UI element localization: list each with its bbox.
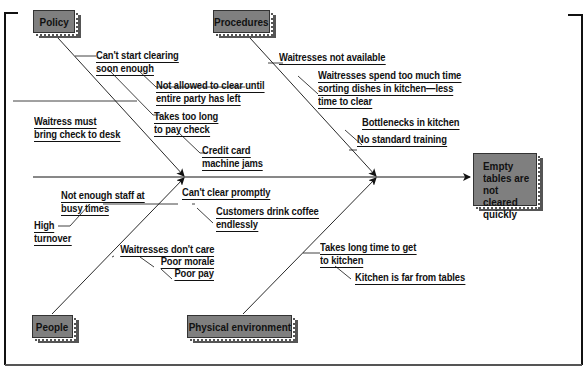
cause-cant-clear-promptly: Can't clear promptly <box>182 187 270 200</box>
cause-customers-drink-coffee: Customers drink coffee endlessly <box>216 206 319 232</box>
cause-not-enough-staff: Not enough staff at busy times <box>61 190 145 216</box>
effect-label: Empty tables are not cleared quickly <box>483 160 531 220</box>
cause-high-turnover: High turnover <box>34 220 71 246</box>
cause-waitress-must-bring-check: Waitress must bring check to desk <box>34 116 120 142</box>
category-label: People <box>36 321 68 333</box>
cause-bottlenecks-in-kitchen: Bottlenecks in kitchen <box>362 117 459 130</box>
category-box-policy: Policy <box>33 10 75 33</box>
cause-takes-too-long-to-pay: Takes too long to pay check <box>154 111 218 137</box>
category-label: Policy <box>39 16 68 28</box>
category-box-people: People <box>32 315 73 338</box>
category-box-physical-environment: Physical environment <box>187 315 292 338</box>
cause-takes-long-time-to-kitchen: Takes long time to get to kitchen <box>320 242 416 268</box>
cause-not-allowed-to-clear: Not allowed to clear until entire party … <box>156 80 265 106</box>
cause-credit-card-machine-jams: Credit card machine jams <box>202 145 263 171</box>
category-label: Procedures <box>214 16 268 28</box>
cause-waitresses-not-available: Waitresses not available <box>279 52 385 65</box>
fishbone-diagram: Policy Procedures People Physical enviro… <box>0 0 586 368</box>
category-label: Physical environment <box>188 321 290 333</box>
category-box-procedures: Procedures <box>213 10 270 33</box>
cause-waitresses-sorting-dishes: Waitresses spend too much time sorting d… <box>318 70 461 109</box>
cause-no-standard-training: No standard training <box>357 134 447 147</box>
effect-box: Empty tables are not cleared quickly <box>473 153 537 206</box>
cause-cant-start-clearing: Can't start clearing soon enough <box>96 50 179 76</box>
cause-poor-pay: Poor pay <box>175 268 214 281</box>
cause-kitchen-far-from-tables: Kitchen is far from tables <box>355 272 465 285</box>
